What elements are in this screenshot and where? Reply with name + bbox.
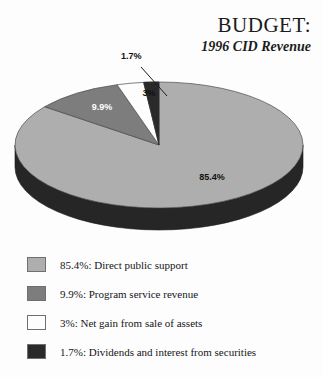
legend-item[interactable]: 9.9%: Program service revenue bbox=[27, 279, 312, 308]
pie-chart-svg: 1.7% 3% 9.9% 85.4% bbox=[0, 40, 323, 245]
legend-item[interactable]: 3%: Net gain from sale of assets bbox=[27, 308, 312, 337]
pie-label-direct-public-support: 85.4% bbox=[199, 172, 225, 182]
legend-swatch-icon bbox=[27, 315, 46, 330]
legend-item-label: 9.9%: Program service revenue bbox=[60, 288, 198, 300]
pie-chart-page: BUDGET: 1996 CID Revenue bbox=[0, 0, 323, 377]
legend-item[interactable]: 85.4%: Direct public support bbox=[27, 250, 312, 279]
pie-label-net-gain-sale-assets: 3% bbox=[142, 88, 155, 98]
pie-label-program-service-revenue: 9.9% bbox=[92, 102, 113, 112]
legend-item-label: 1.7%: Dividends and interest from securi… bbox=[60, 346, 256, 358]
pie-slices bbox=[15, 82, 303, 208]
legend-swatch-icon bbox=[27, 344, 46, 359]
chart-legend: 85.4%: Direct public support 9.9%: Progr… bbox=[27, 250, 312, 366]
legend-swatch-icon bbox=[27, 286, 46, 301]
pie-chart-area: 1.7% 3% 9.9% 85.4% bbox=[0, 40, 323, 245]
page-title: BUDGET: bbox=[131, 14, 311, 36]
legend-swatch-icon bbox=[27, 257, 46, 272]
legend-item[interactable]: 1.7%: Dividends and interest from securi… bbox=[27, 337, 312, 366]
legend-item-label: 3%: Net gain from sale of assets bbox=[60, 317, 202, 329]
pie-label-dividends-interest-securities: 1.7% bbox=[121, 51, 142, 61]
legend-item-label: 85.4%: Direct public support bbox=[60, 259, 188, 271]
